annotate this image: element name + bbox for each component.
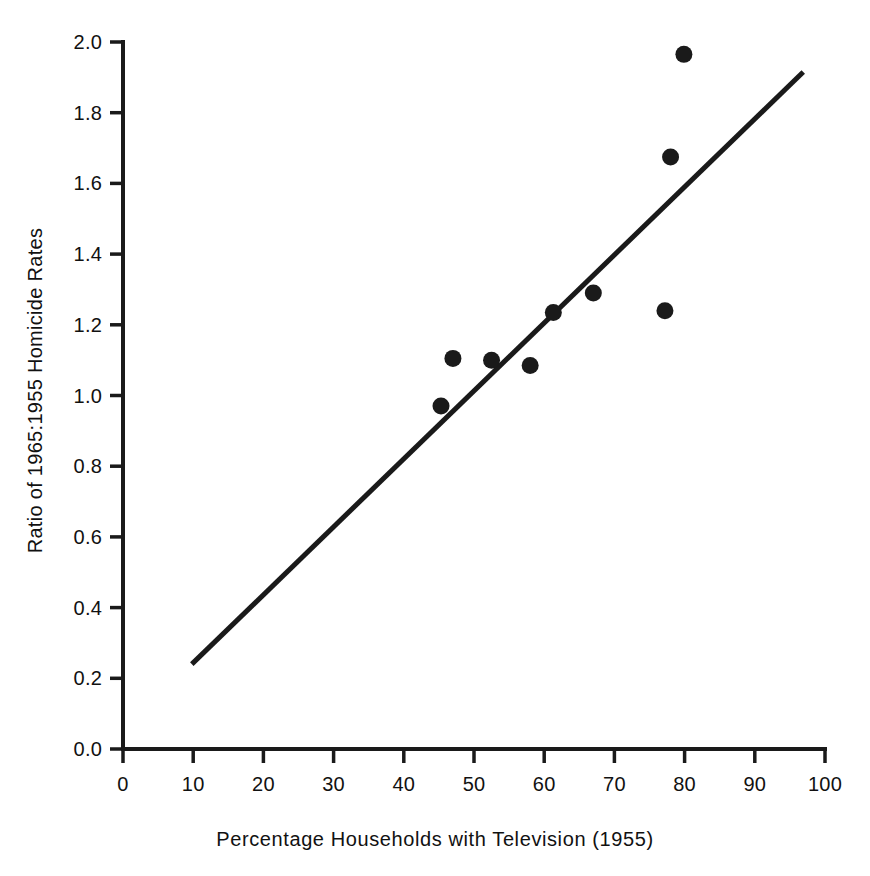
data-point xyxy=(444,350,461,367)
y-axis-tick-label: 1.0 xyxy=(50,384,102,407)
y-axis-tick-label: 0.0 xyxy=(50,738,102,761)
y-axis-tick-label: 1.6 xyxy=(50,172,102,195)
y-axis-tick-label: 0.2 xyxy=(50,667,102,690)
data-point xyxy=(522,357,539,374)
data-point xyxy=(662,148,679,165)
x-axis-tick-label: 20 xyxy=(252,773,275,796)
y-axis-tick-label: 1.4 xyxy=(50,243,102,266)
x-axis-tick-label: 80 xyxy=(673,773,696,796)
data-point xyxy=(433,398,450,415)
y-axis-tick-label: 2.0 xyxy=(50,31,102,54)
y-axis-tick-label: 0.4 xyxy=(50,596,102,619)
x-axis-tick-label: 30 xyxy=(322,773,345,796)
regression-line xyxy=(192,72,803,664)
y-axis-tick-label: 1.2 xyxy=(50,313,102,336)
y-axis-tick-label: 1.8 xyxy=(50,101,102,124)
scatter-plot-figure: Ratio of 1965:1955 Homicide Rates Percen… xyxy=(0,0,870,876)
y-axis-label: Ratio of 1965:1955 Homicide Rates xyxy=(25,227,48,553)
x-axis-tick-label: 40 xyxy=(392,773,415,796)
data-point xyxy=(585,284,602,301)
x-axis-tick-label: 10 xyxy=(182,773,205,796)
data-point xyxy=(675,46,692,63)
y-axis-tick-label: 0.6 xyxy=(50,525,102,548)
x-axis-tick-label: 50 xyxy=(463,773,486,796)
x-axis-label: Percentage Households with Television (1… xyxy=(0,828,870,851)
data-point xyxy=(545,304,562,321)
x-axis-tick-label: 100 xyxy=(808,773,842,796)
y-axis-tick-label: 0.8 xyxy=(50,455,102,478)
plot-canvas xyxy=(0,0,870,876)
x-axis-tick-label: 70 xyxy=(603,773,626,796)
data-point xyxy=(656,302,673,319)
x-axis-tick-label: 0 xyxy=(117,773,128,796)
data-point xyxy=(483,352,500,369)
x-axis-tick-label: 60 xyxy=(533,773,556,796)
x-axis-tick-label: 90 xyxy=(743,773,766,796)
